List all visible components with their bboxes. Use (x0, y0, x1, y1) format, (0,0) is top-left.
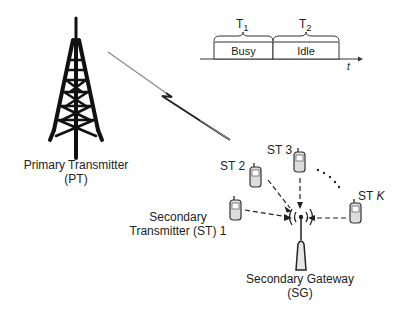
st2-label: ST 2 (220, 159, 245, 173)
busy-state-label: Busy (214, 44, 273, 58)
phone-icon-st2 (250, 163, 261, 187)
period-t2-label: T2 (299, 17, 312, 35)
time-axis-label: t (347, 60, 350, 74)
primary-transmitter-label: Primary Transmitter (PT) (10, 158, 142, 186)
st3-label: ST 3 (267, 143, 292, 157)
idle-state-label: Idle (273, 44, 339, 58)
tower-icon (50, 18, 102, 158)
stk-label: ST K (358, 189, 384, 203)
phone-icon-st3 (294, 148, 305, 172)
period-t1-label: T1 (236, 17, 249, 35)
st1-label: Secondary Transmitter (ST) 1 (118, 210, 238, 238)
wireless-link-icon (108, 52, 230, 140)
ellipsis-dots (317, 169, 340, 188)
secondary-gateway-label: Secondary Gateway (SG) (240, 272, 360, 300)
